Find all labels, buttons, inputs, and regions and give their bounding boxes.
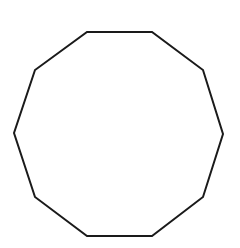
decagon-shape	[14, 32, 223, 236]
decagon-diagram	[0, 0, 240, 248]
